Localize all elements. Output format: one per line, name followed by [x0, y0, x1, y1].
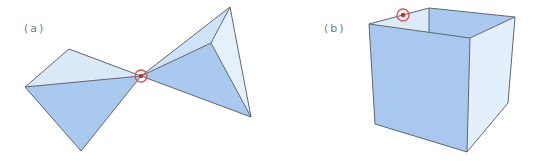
panel-b-label: (b) — [324, 22, 346, 35]
panel-a-label: (a) — [24, 22, 45, 35]
vertex-point-icon — [401, 13, 405, 17]
figure-canvas — [0, 0, 534, 161]
panel-a-bowtie-tetrahedra — [25, 7, 251, 151]
face — [369, 24, 470, 152]
face — [25, 76, 141, 151]
panel-b-open-cube — [369, 8, 515, 152]
vertex-point-icon — [139, 74, 143, 78]
face — [467, 17, 515, 152]
